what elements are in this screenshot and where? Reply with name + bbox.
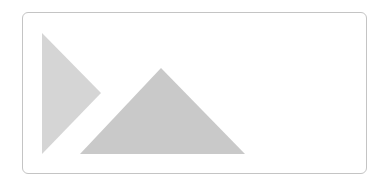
mountain-triangle-icon	[80, 68, 245, 154]
image-placeholder-icon	[0, 0, 389, 185]
play-triangle-icon	[42, 33, 101, 154]
